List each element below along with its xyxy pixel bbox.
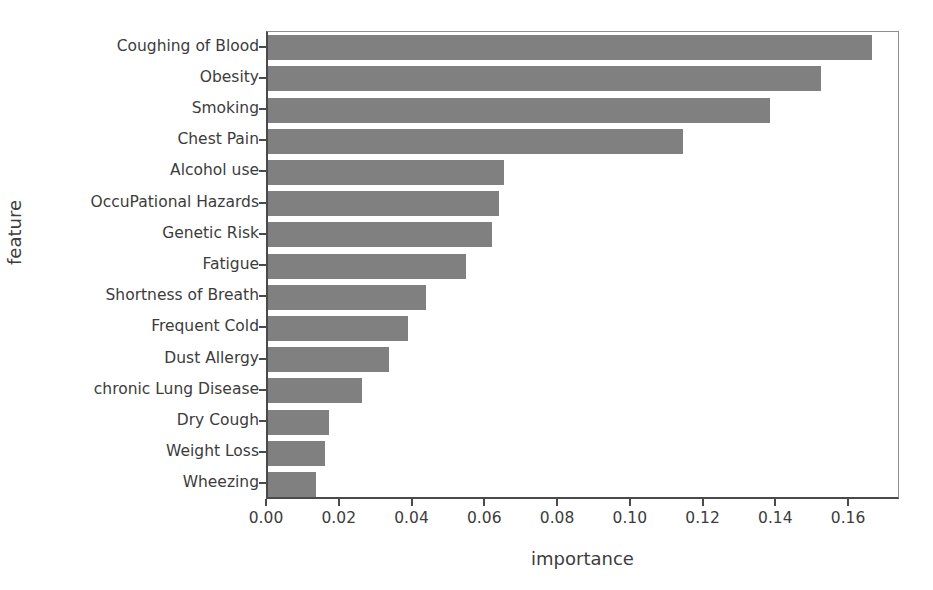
y-tick-mark [259,264,266,266]
bar [268,285,426,310]
bar [268,347,389,372]
x-tick-label: 0.00 [226,509,306,528]
y-tick-label-group: Coughing of BloodObesitySmokingChest Pai… [0,0,259,590]
x-tick-mark [338,499,340,506]
x-tick-mark [847,499,849,506]
y-tick-mark [259,77,266,79]
bar-row [268,66,901,91]
bar [268,254,466,279]
bar-row [268,160,901,185]
y-tick-mark [259,46,266,48]
bar [268,472,316,497]
y-tick-label: Weight Loss [0,444,259,460]
y-tick-label: Obesity [0,70,259,86]
bar [268,316,408,341]
y-tick-label: Chest Pain [0,132,259,148]
x-tick-label: 0.02 [299,509,379,528]
bar [268,410,329,435]
y-tick-label: Smoking [0,101,259,117]
y-axis-title: feature [6,200,24,265]
x-axis-title: importance [266,548,899,570]
x-tick-label: 0.08 [517,509,597,528]
bar-row [268,254,901,279]
y-tick-label: Wheezing [0,475,259,491]
x-tick-mark [411,499,413,506]
x-tick-label: 0.16 [808,509,888,528]
x-tick-mark [556,499,558,506]
bar-row [268,222,901,247]
bar-row [268,129,901,154]
y-tick-mark [259,139,266,141]
y-tick-mark [259,389,266,391]
bar-row [268,410,901,435]
y-tick-mark [259,295,266,297]
y-tick-mark [259,358,266,360]
y-tick-label: Shortness of Breath [0,288,259,304]
x-tick-mark [629,499,631,506]
bar [268,98,770,123]
y-tick-label: OccuPational Hazards [0,195,259,211]
y-tick-mark [259,202,266,204]
y-tick-mark [259,233,266,235]
bar-row [268,347,901,372]
y-tick-label: Frequent Cold [0,319,259,335]
x-tick-label: 0.04 [372,509,452,528]
bar [268,160,504,185]
x-tick-label: 0.14 [735,509,815,528]
y-tick-label: Coughing of Blood [0,39,259,55]
bar-row [268,441,901,466]
y-tick-label: Genetic Risk [0,226,259,242]
x-tick-mark [774,499,776,506]
y-tick-mark [259,108,266,110]
plot-area [266,31,899,499]
bar-row [268,98,901,123]
x-tick-mark [483,499,485,506]
bar [268,129,683,154]
y-tick-label: Alcohol use [0,163,259,179]
bar-row [268,378,901,403]
y-tick-label: Fatigue [0,257,259,273]
x-tick-label: 0.10 [590,509,670,528]
x-tick-label: 0.12 [663,509,743,528]
bar-row [268,316,901,341]
bar [268,66,821,91]
bar [268,378,362,403]
y-tick-label: Dust Allergy [0,351,259,367]
y-tick-mark [259,420,266,422]
y-tick-mark [259,451,266,453]
x-tick-label: 0.06 [444,509,524,528]
x-tick-mark [702,499,704,506]
y-tick-mark [259,170,266,172]
bar [268,222,492,247]
y-tick-label: chronic Lung Disease [0,382,259,398]
bar-row [268,35,901,60]
bar-row [268,191,901,216]
bar [268,191,499,216]
x-tick-mark [265,499,267,506]
bar-row [268,285,901,310]
y-tick-label: Dry Cough [0,413,259,429]
bar [268,441,325,466]
bar [268,35,872,60]
bar-row [268,472,901,497]
bar-chart-figure: Coughing of BloodObesitySmokingChest Pai… [0,0,933,590]
y-tick-mark [259,482,266,484]
y-tick-mark [259,326,266,328]
